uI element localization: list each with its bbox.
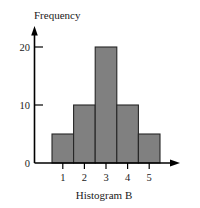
y-tick-label-0: 0 — [25, 158, 30, 169]
x-tick-label-2: 2 — [82, 172, 87, 183]
bar-category-5 — [138, 134, 160, 163]
chart-caption: Histogram B — [76, 189, 133, 201]
y-tick-label-10: 10 — [20, 100, 31, 111]
x-tick-label-3: 3 — [103, 172, 108, 183]
x-tick-label-4: 4 — [125, 172, 131, 183]
y-axis-title: Frequency — [34, 9, 81, 21]
bar-category-4 — [117, 105, 139, 163]
histogram-chart: 20 10 0 1 2 3 4 5 Frequency Histogram B — [0, 0, 200, 208]
histogram-figure: 20 10 0 1 2 3 4 5 Frequency Histogram B — [0, 0, 200, 208]
x-tick-label-5: 5 — [147, 172, 152, 183]
y-tick-label-20: 20 — [20, 42, 31, 53]
bar-category-1 — [52, 134, 74, 163]
bar-category-2 — [74, 105, 96, 163]
bar-category-3 — [95, 47, 117, 163]
x-tick-label-1: 1 — [60, 172, 65, 183]
